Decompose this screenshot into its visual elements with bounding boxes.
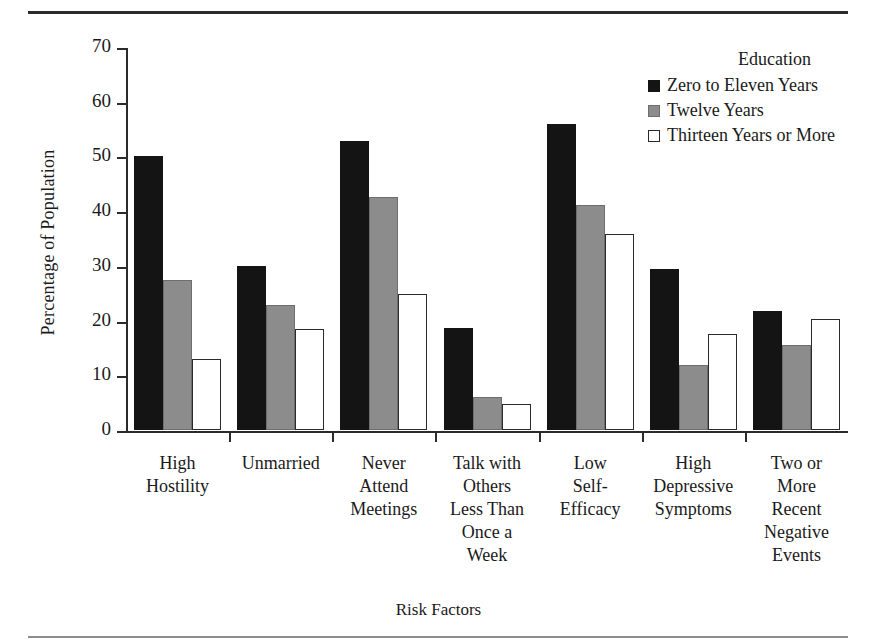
page-rule-bottom [28,636,848,638]
bar [192,359,221,430]
x-axis-tick [332,433,334,442]
y-axis-tick-label: 70 [92,35,111,57]
y-axis-tick: 50 [117,157,126,159]
y-axis-tick: 10 [117,376,126,378]
bar [650,269,679,430]
bar [708,334,737,430]
legend-item-twelve-years: Twelve Years [648,99,877,123]
legend: Education Zero to Eleven Years Twelve Ye… [648,48,877,149]
figure-bar-chart: Percentage of Population 010203040506070… [0,0,877,642]
y-axis-tick: 70 [117,48,126,50]
y-axis-tick-label: 10 [92,363,111,385]
x-axis-tick [435,433,437,442]
bar-group [237,47,324,430]
x-axis-tick [642,433,644,442]
bar [502,404,531,430]
bar [473,397,502,430]
y-axis-tick: 0 [117,431,126,433]
legend-swatch-icon [648,105,660,117]
bar-group [444,47,531,430]
bar [369,197,398,430]
y-axis-line [126,48,128,433]
bar [295,329,324,430]
legend-swatch-icon [648,130,660,142]
legend-item-zero-to-eleven-years: Zero to Eleven Years [648,74,877,98]
x-axis-tick [745,433,747,442]
bar [782,345,811,430]
bar-group [547,47,634,430]
y-axis-tick: 60 [117,103,126,105]
y-axis-tick-label: 50 [92,144,111,166]
bar [237,266,266,430]
bar [753,311,782,430]
legend-item-label: Thirteen Years or More [667,124,835,148]
page-rule-top [28,11,848,14]
x-axis-category-label: Two orMoreRecentNegativeEvents [732,452,860,567]
y-axis-tick-label: 0 [102,418,112,440]
bar [266,305,295,430]
bar [679,365,708,430]
y-axis-tick: 20 [117,322,126,324]
y-axis-tick-label: 60 [92,90,111,112]
y-axis-tick-label: 30 [92,254,111,276]
bar [398,294,427,430]
legend-item-label: Zero to Eleven Years [667,74,818,98]
bar-group [340,47,427,430]
bar [340,141,369,430]
x-axis-line [126,431,848,433]
bar [547,124,576,430]
legend-item-label: Twelve Years [667,99,764,123]
bar [576,205,605,430]
x-axis-tick [229,433,231,442]
y-axis-tick: 30 [117,267,126,269]
legend-title: Education [672,48,877,72]
y-axis-tick: 40 [117,212,126,214]
bar [163,280,192,430]
bar [811,319,840,430]
bar-group [134,47,221,430]
bar [134,156,163,430]
y-axis-title: Percentage of Population [38,73,59,413]
y-axis-tick-label: 20 [92,308,111,330]
bar [444,328,473,430]
y-axis-tick-label: 40 [92,199,111,221]
legend-swatch-icon [648,80,660,92]
x-axis-title: Risk Factors [0,600,877,620]
x-axis-tick [539,433,541,442]
legend-item-thirteen-years-or-more: Thirteen Years or More [648,124,877,148]
bar [605,234,634,430]
